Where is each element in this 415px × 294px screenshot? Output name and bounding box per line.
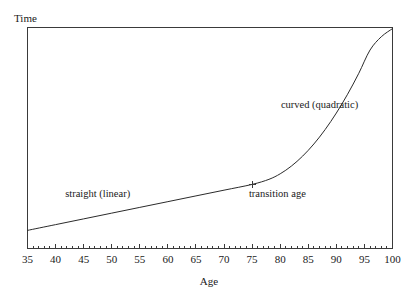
x-tick-label: 65	[190, 253, 202, 265]
y-axis-title: Time	[14, 12, 37, 24]
x-tick-label: 35	[22, 253, 34, 265]
quadratic-segment-label: curved (quadratic)	[281, 99, 359, 111]
transition-age-label: transition age	[249, 188, 306, 199]
chart-background	[0, 0, 415, 294]
x-tick-label: 60	[162, 253, 174, 265]
x-tick-label: 80	[275, 253, 287, 265]
x-tick-label: 70	[219, 253, 231, 265]
x-tick-label: 85	[303, 253, 315, 265]
x-tick-label: 75	[247, 253, 259, 265]
x-tick-label: 100	[384, 253, 401, 265]
x-tick-label: 45	[78, 253, 90, 265]
age-time-plot: 35404550556065707580859095100 Time Age s…	[0, 0, 415, 294]
chart-figure: 35404550556065707580859095100 Time Age s…	[0, 0, 415, 294]
linear-segment-label: straight (linear)	[65, 188, 131, 200]
x-tick-label: 40	[50, 253, 62, 265]
x-tick-label: 55	[134, 253, 146, 265]
x-tick-label: 95	[359, 253, 371, 265]
x-tick-label: 90	[331, 253, 343, 265]
x-tick-label: 50	[106, 253, 118, 265]
x-axis-title: Age	[200, 275, 218, 287]
